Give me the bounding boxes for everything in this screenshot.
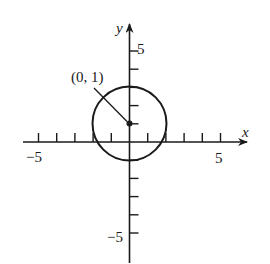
- y-axis: [130, 24, 139, 263]
- coordinate-plane-figure: (0, 1) y x 5 −5 −5 5: [0, 0, 270, 264]
- center-point: [127, 121, 133, 127]
- x-tick-label-pos: 5: [215, 150, 223, 166]
- x-axis: [23, 133, 247, 142]
- y-tick-label-neg: −5: [107, 229, 123, 245]
- x-axis-label: x: [241, 124, 249, 140]
- leader-line: [94, 88, 127, 122]
- y-tick-label-pos: 5: [137, 41, 145, 57]
- x-tick-label-neg: −5: [26, 149, 42, 165]
- y-axis-label: y: [114, 20, 123, 36]
- point-label: (0, 1): [71, 69, 104, 86]
